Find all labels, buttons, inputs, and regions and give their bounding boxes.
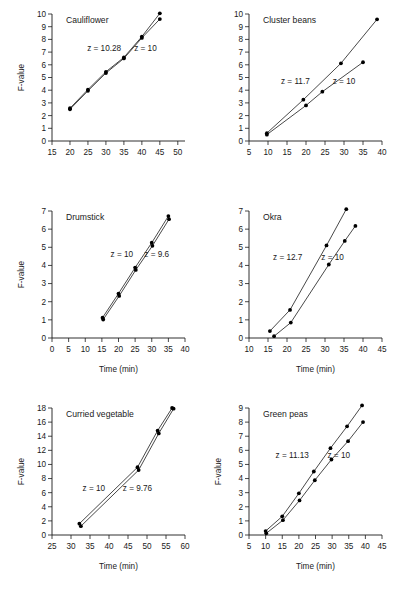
y-tick-label: 6 [238, 225, 243, 234]
y-tick-label: 3 [238, 279, 243, 288]
x-tick-label: 45 [377, 345, 387, 354]
panel-title: Okra [263, 212, 282, 222]
data-series-2 [272, 224, 357, 338]
data-series-1 [264, 404, 364, 533]
y-tick-label: 2 [238, 298, 243, 307]
data-point-marker [265, 133, 269, 137]
y-tick-label: 6 [41, 489, 46, 498]
y-tick-label: 1 [238, 316, 243, 325]
y-tick-label: 10 [234, 10, 244, 19]
y-tick-label: 16 [37, 418, 47, 427]
x-tick-label: 25 [320, 148, 330, 157]
x-tick-label: 40 [361, 542, 371, 551]
x-tick-label: 20 [294, 542, 304, 551]
x-tick-label: 20 [282, 345, 292, 354]
x-tick-label: 25 [47, 542, 57, 551]
data-point-marker [361, 60, 365, 64]
x-tick-label: 15 [263, 345, 273, 354]
data-point-marker [346, 439, 350, 443]
data-point-marker [79, 524, 83, 528]
data-point-marker [298, 499, 302, 503]
z-annotation-1: z = 12.7 [273, 253, 303, 262]
x-tick-label: 35 [358, 148, 368, 157]
data-series-1 [101, 214, 171, 319]
panel-title: Drumstick [66, 212, 105, 222]
y-tick-label: 7 [41, 207, 46, 216]
data-point-marker [320, 90, 324, 94]
y-tick-label: 5 [238, 460, 243, 469]
y-tick-label: 7 [41, 48, 46, 57]
x-axis-ticks: 510152025303540 [247, 141, 387, 157]
y-tick-label: 2 [238, 112, 243, 121]
y-axis-title: F-value [17, 260, 26, 288]
x-tick-label: 30 [66, 542, 76, 551]
y-axis-ticks: 012345678910 [37, 10, 52, 146]
z-annotation-2: z = 10 [333, 77, 356, 86]
y-tick-label: 0 [238, 531, 243, 540]
x-tick-label: 30 [147, 345, 157, 354]
series-line [270, 209, 346, 331]
y-tick-label: 4 [238, 474, 243, 483]
x-tick-label: 5 [66, 345, 71, 354]
series-line [274, 226, 355, 336]
data-point-marker [344, 207, 348, 211]
x-tick-label: 40 [104, 542, 114, 551]
x-tick-label: 10 [81, 345, 91, 354]
data-point-marker [158, 11, 162, 15]
x-tick-label: 25 [83, 148, 93, 157]
y-tick-label: 8 [238, 35, 243, 44]
y-tick-label: 4 [41, 261, 46, 270]
x-axis-ticks: 1520253035404550 [47, 141, 182, 157]
y-axis-ticks: 024681012141618 [37, 404, 52, 540]
data-point-marker [304, 104, 308, 108]
y-tick-label: 7 [238, 432, 243, 441]
x-tick-label: 45 [377, 542, 387, 551]
y-tick-label: 14 [37, 432, 47, 441]
y-axis-ticks: 01234567 [238, 207, 249, 343]
axis-lines [52, 14, 185, 141]
x-tick-label: 20 [65, 148, 75, 157]
y-axis-title: F-value [17, 63, 26, 91]
y-axis-title: F-value [214, 457, 223, 485]
x-axis-ticks: 0510152025303540 [50, 338, 190, 354]
y-tick-label: 1 [41, 316, 46, 325]
series-line [267, 62, 363, 134]
y-tick-label: 0 [238, 334, 243, 343]
x-tick-label: 40 [377, 148, 387, 157]
x-axis-title: Time (min) [99, 365, 138, 374]
x-tick-label: 35 [164, 345, 174, 354]
figure-panel-grid: 0123456789101520253035404550Cauliflowerz… [0, 0, 394, 592]
data-series-2 [101, 217, 171, 321]
data-point-marker [280, 514, 284, 518]
panel-title: Cluster beans [263, 15, 316, 25]
y-tick-label: 4 [41, 503, 46, 512]
series-line [266, 405, 362, 531]
data-point-marker [281, 518, 285, 522]
x-tick-label: 25 [311, 542, 321, 551]
chart-panel-curried-vegetable: 0246810121416182530354045505560Curried v… [0, 394, 197, 591]
data-point-marker [122, 57, 126, 61]
y-tick-label: 3 [41, 99, 46, 108]
y-tick-label: 5 [41, 243, 46, 252]
data-point-marker [312, 470, 316, 474]
data-point-marker [68, 107, 72, 111]
axis-lines [52, 211, 185, 338]
x-tick-label: 15 [278, 542, 288, 551]
z-annotation-2: z = 9.76 [123, 484, 153, 493]
y-tick-label: 9 [238, 404, 243, 413]
y-tick-label: 2 [41, 298, 46, 307]
x-tick-label: 30 [339, 148, 349, 157]
data-point-marker [140, 36, 144, 40]
x-tick-label: 35 [344, 542, 354, 551]
z-annotation-1: z = 11.7 [281, 77, 310, 86]
y-axis-title: F-value [17, 457, 26, 485]
x-tick-label: 10 [244, 345, 254, 354]
x-tick-label: 15 [282, 148, 292, 157]
y-axis-ticks: 01234567 [41, 207, 52, 343]
x-tick-label: 10 [261, 542, 271, 551]
x-tick-label: 5 [247, 542, 252, 551]
y-tick-label: 6 [41, 225, 46, 234]
x-tick-label: 50 [142, 542, 152, 551]
x-tick-label: 40 [358, 345, 368, 354]
x-tick-label: 30 [101, 148, 111, 157]
